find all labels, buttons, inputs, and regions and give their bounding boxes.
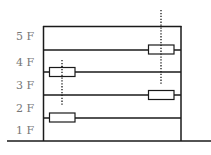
box-2f-left [50,113,76,122]
building-diagram: 5 F 4 F 3 F 2 F 1 F [0,0,211,155]
floor-label-4f: 4 F [16,56,34,69]
box-5f-right [149,45,175,54]
floor-label-3f: 3 F [16,79,34,92]
floor-label-5f: 5 F [16,30,34,43]
floor-label-2f: 2 F [16,102,34,115]
floor-label-1f: 1 F [16,124,34,137]
box-3f-right [149,91,175,100]
